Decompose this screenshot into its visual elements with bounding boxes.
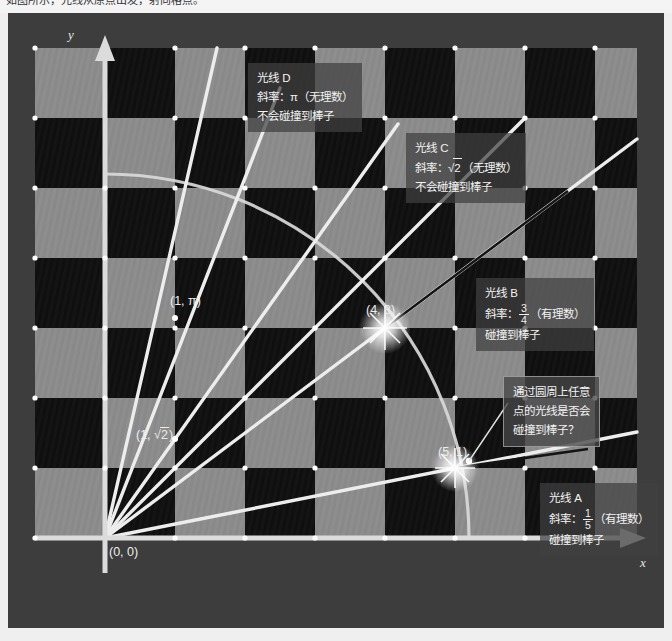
- callout-ray-a-title: 光线 A: [549, 489, 649, 508]
- callout-ray-d: 光线 D 斜率：π（无理数） 不会碰撞到棒子: [248, 63, 362, 132]
- label-point-1-pi: (1, π): [170, 294, 201, 308]
- label-origin: (0, 0): [109, 545, 138, 559]
- ray-b-slope-prefix: 斜率：: [485, 308, 518, 320]
- callout-ray-b: 光线 B 斜率：34（有理数） 碰撞到棒子: [476, 278, 594, 351]
- callout-ray-d-title: 光线 D: [257, 69, 353, 88]
- label-point-5-1: (5, 1): [438, 445, 467, 459]
- sqrt2-prefix: (1,: [136, 428, 154, 442]
- ray-c-slope-suffix: （无理数）: [462, 162, 517, 174]
- figure-frame: y x (0, 0) (4, 3) (5, 1) (1, π) (1, √2) …: [8, 13, 664, 628]
- callout-ray-c-result: 不会碰撞到棒子: [415, 178, 517, 197]
- fraction-3-4: 34: [519, 303, 529, 326]
- ray-b-den: 4: [519, 315, 529, 326]
- ray-c-slope-prefix: 斜率：: [415, 162, 448, 174]
- callout-ray-a: 光线 A 斜率：15（有理数） 碰撞到棒子: [540, 483, 658, 556]
- dot-1-pi: [172, 315, 178, 321]
- circle-question-line3: 碰撞到棒子？: [513, 421, 590, 440]
- label-point-1-sqrt2: (1, √2): [136, 427, 173, 442]
- sqrt2-radicand: 2: [160, 427, 169, 442]
- ray-b-slope-suffix: （有理数）: [530, 308, 585, 320]
- callout-ray-d-result: 不会碰撞到棒子: [257, 107, 353, 126]
- callout-ray-b-result: 碰撞到棒子: [485, 326, 585, 345]
- ray-c-radicand: 2: [453, 158, 461, 178]
- y-axis-label: y: [68, 27, 74, 43]
- callout-ray-a-result: 碰撞到棒子: [549, 531, 649, 550]
- cut-off-caption-text: 如图所示，光线从原点出发，射向格点。: [6, 0, 204, 7]
- callout-ray-b-slope: 斜率：34（有理数）: [485, 303, 585, 326]
- ray-d-slope-suffix: （无理数）: [298, 91, 353, 103]
- callout-ray-c-slope: 斜率：√2（无理数）: [415, 158, 517, 178]
- circle-question-line1: 通过圆周上任意: [513, 383, 590, 402]
- sqrt-icon: √2: [448, 158, 462, 178]
- figure-root: 如图所示，光线从原点出发，射向格点。: [0, 0, 672, 641]
- callout-ray-c: 光线 C 斜率：√2（无理数） 不会碰撞到棒子: [406, 133, 526, 203]
- ray-d-slope-value: π: [290, 91, 298, 103]
- ray-a-slope-suffix: （有理数）: [594, 513, 649, 525]
- label-point-4-3: (4, 3): [366, 303, 395, 317]
- callout-ray-c-title: 光线 C: [415, 139, 517, 158]
- sqrt2-suffix: ): [169, 428, 173, 442]
- x-axis-label: x: [640, 555, 646, 571]
- ray-a-den: 5: [583, 520, 593, 531]
- ray-a-slope-prefix: 斜率：: [549, 513, 582, 525]
- callout-ray-a-slope: 斜率：15（有理数）: [549, 508, 649, 531]
- ray-d-slope-prefix: 斜率：: [257, 91, 290, 103]
- callout-ray-d-slope: 斜率：π（无理数）: [257, 88, 353, 107]
- cut-off-caption-strip: 如图所示，光线从原点出发，射向格点。: [0, 0, 672, 13]
- sqrt-icon: √2: [154, 427, 169, 442]
- circle-question-line2: 点的光线是否会: [513, 402, 590, 421]
- callout-ray-b-title: 光线 B: [485, 284, 585, 303]
- callout-circle-question: 通过圆周上任意 点的光线是否会 碰撞到棒子？: [503, 376, 600, 447]
- fraction-1-5: 15: [583, 508, 593, 531]
